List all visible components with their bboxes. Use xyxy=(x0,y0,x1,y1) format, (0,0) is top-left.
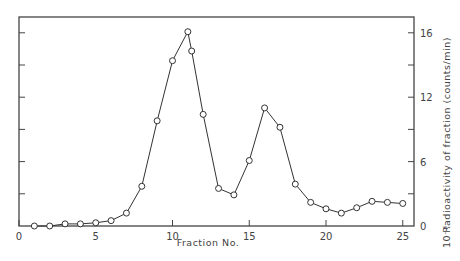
data-point-marker xyxy=(308,199,314,205)
data-point-marker xyxy=(139,183,145,189)
data-point-marker xyxy=(384,199,390,205)
data-point-marker xyxy=(47,223,53,229)
data-point-marker xyxy=(93,220,99,226)
y-tick-label: 12 xyxy=(420,92,433,103)
y-axis-title: Radioactivity of fraction (counts/min) xyxy=(441,37,452,233)
data-point-marker xyxy=(246,158,252,164)
radioactivity-line-chart: 0510152025 061216 Fraction No. Radioacti… xyxy=(0,0,460,261)
data-point-marker xyxy=(231,192,237,198)
data-point-marker xyxy=(369,198,375,204)
x-tick-label: 15 xyxy=(243,231,256,242)
data-point-marker xyxy=(323,206,329,212)
x-tick-label: 5 xyxy=(93,231,99,242)
data-point-marker xyxy=(216,185,222,191)
plot-frame xyxy=(19,17,414,226)
data-point-marker xyxy=(354,205,360,211)
x-tick-label: 20 xyxy=(320,231,333,242)
data-point-marker xyxy=(77,221,83,227)
data-point-marker xyxy=(154,118,160,124)
data-point-marker xyxy=(185,29,191,35)
data-point-marker xyxy=(108,218,114,224)
data-point-marker xyxy=(292,181,298,187)
data-series xyxy=(31,29,405,229)
data-point-marker xyxy=(170,58,176,64)
x-axis-title: Fraction No. xyxy=(177,237,240,248)
data-point-marker xyxy=(123,210,129,216)
data-point-marker xyxy=(338,210,344,216)
x-tick-label: 0 xyxy=(16,231,22,242)
series-line xyxy=(34,32,402,226)
data-point-marker xyxy=(277,124,283,130)
plot-border xyxy=(19,17,414,226)
data-point-marker xyxy=(400,200,406,206)
data-point-marker xyxy=(62,221,68,227)
y-tick-label: 16 xyxy=(420,28,433,39)
data-point-marker xyxy=(31,223,37,229)
data-point-marker xyxy=(200,111,206,117)
y-tick-label: 0 xyxy=(420,221,426,232)
data-point-marker xyxy=(262,105,268,111)
y-axis-multiplier: 10⁻⁶ xyxy=(441,225,452,248)
data-point-marker xyxy=(189,48,195,54)
y-tick-label: 6 xyxy=(420,157,426,168)
x-tick-label: 25 xyxy=(396,231,409,242)
